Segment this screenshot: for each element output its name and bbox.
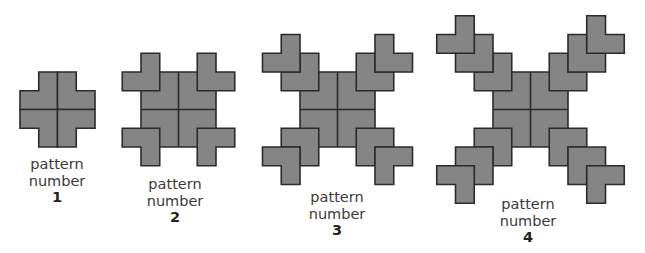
l-shaped-tile <box>122 53 160 91</box>
pattern-shapes <box>20 16 624 204</box>
number-word: number <box>287 206 387 223</box>
l-shaped-tile <box>375 35 413 73</box>
l-shaped-tile <box>437 166 475 204</box>
l-shaped-tile <box>20 110 58 148</box>
number-word: number <box>7 173 107 190</box>
l-shaped-tile <box>375 147 413 185</box>
pattern-number: 4 <box>478 229 578 246</box>
pattern-2-label: pattern number 2 <box>125 176 225 226</box>
l-shaped-tile <box>587 166 625 204</box>
pattern-word: pattern <box>478 196 578 213</box>
pattern-3-label: pattern number 3 <box>287 189 387 239</box>
pattern-word: pattern <box>7 156 107 173</box>
l-shaped-tile <box>197 128 235 166</box>
l-shaped-tile <box>197 53 235 91</box>
pattern-1-label: pattern number 1 <box>7 156 107 206</box>
l-shaped-tile <box>20 72 58 110</box>
pattern-word: pattern <box>287 189 387 206</box>
l-shaped-tile <box>263 147 301 185</box>
l-shaped-tile <box>587 16 625 54</box>
pattern-word: pattern <box>125 176 225 193</box>
number-word: number <box>478 213 578 230</box>
l-shaped-tile <box>58 72 96 110</box>
pattern-number: 2 <box>125 209 225 226</box>
l-shaped-tile <box>122 128 160 166</box>
pattern-number: 3 <box>287 222 387 239</box>
l-shaped-tile <box>263 35 301 73</box>
l-shaped-tile <box>58 110 96 148</box>
l-shaped-tile <box>437 16 475 54</box>
pattern-4-label: pattern number 4 <box>478 196 578 246</box>
pattern-number: 1 <box>7 189 107 206</box>
number-word: number <box>125 193 225 210</box>
